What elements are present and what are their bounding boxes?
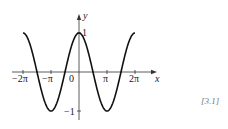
tick-label-yneg1: −1 [64, 106, 75, 117]
y-axis-label: y [82, 10, 88, 21]
figure-reference: [3.1] [201, 96, 220, 106]
tick-label-negpi: −π [42, 73, 53, 84]
tick-label-neg2pi: −2π [12, 73, 28, 84]
tick-label-y1: 1 [82, 27, 87, 38]
tick-label-pi: π [103, 73, 108, 84]
x-axis-label: x [154, 73, 160, 84]
tick-label-2pi: 2π [129, 73, 139, 84]
y-axis-arrow-icon [77, 14, 81, 20]
tick-label-zero: 0 [69, 73, 74, 84]
cosine-chart: −2π −π 0 π 2π 1 −1 x y [3.1] [0, 0, 228, 129]
